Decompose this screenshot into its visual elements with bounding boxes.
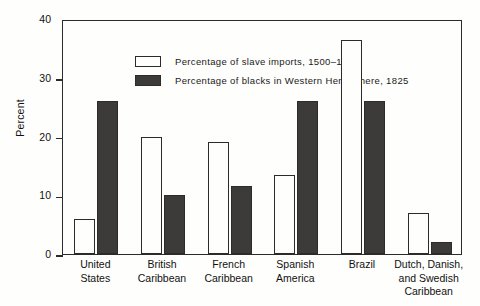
legend-item: Percentage of blacks in Western Hemisphe…: [135, 71, 435, 90]
bar: [431, 242, 452, 254]
x-axis-label-line: Caribbean: [387, 285, 470, 299]
x-axis-label-line: America: [254, 272, 337, 286]
bar: [231, 186, 252, 254]
bar: [408, 213, 429, 254]
plot-area: 010203040 Percentage of slave imports, 1…: [62, 20, 462, 255]
y-tick-label: 10: [11, 189, 51, 201]
legend-label: Percentage of slave imports, 1500–1825: [175, 56, 359, 67]
bar: [74, 219, 95, 254]
y-tick-mark: [56, 79, 63, 81]
x-axis-label-line: Dutch, Danish,: [387, 258, 470, 272]
x-axis-labels: UnitedStatesBritishCaribbeanFrenchCaribb…: [62, 258, 462, 306]
bar: [208, 142, 229, 254]
x-axis-label: Dutch, Danish,and SwedishCaribbean: [387, 258, 470, 299]
y-tick-label: 20: [11, 131, 51, 143]
y-tick-label: 30: [11, 72, 51, 84]
bar: [141, 137, 162, 255]
bar: [341, 40, 362, 254]
bar-chart: Percent 010203040 Percentage of slave im…: [0, 0, 480, 306]
bar: [297, 101, 318, 254]
y-tick-mark: [56, 138, 63, 140]
bar: [164, 195, 185, 254]
bar: [97, 101, 118, 254]
y-tick-mark: [56, 255, 63, 257]
legend-swatch-light: [135, 56, 161, 67]
legend-item: Percentage of slave imports, 1500–1825: [135, 52, 435, 71]
bar: [274, 175, 295, 254]
legend: Percentage of slave imports, 1500–1825Pe…: [135, 52, 435, 90]
x-axis-label-line: and Swedish: [387, 272, 470, 286]
y-tick-mark: [56, 197, 63, 199]
bar: [364, 101, 385, 254]
legend-label: Percentage of blacks in Western Hemisphe…: [175, 75, 409, 86]
bar-group: [63, 21, 130, 254]
legend-swatch-dark: [135, 75, 161, 86]
y-tick-label: 0: [11, 248, 51, 260]
y-tick-label: 40: [11, 13, 51, 25]
y-axis-title: Percent: [14, 78, 26, 158]
